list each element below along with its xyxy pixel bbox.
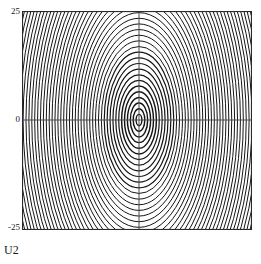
contour-figure: 25 0 -25 U2: [0, 0, 261, 264]
y-axis-tick-labels: 25 0 -25: [0, 0, 20, 264]
y-tick-label-bottom: -25: [0, 222, 20, 232]
x-axis-caption: U2: [4, 243, 19, 257]
plot-area: [22, 11, 252, 230]
y-tick-label-top: 25: [0, 6, 20, 16]
contour-plot-svg: [22, 11, 252, 230]
y-tick-label-middle: 0: [0, 114, 20, 124]
